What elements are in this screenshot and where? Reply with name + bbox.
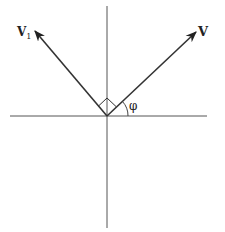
label-v: V: [197, 24, 209, 39]
vector-v1: [35, 31, 107, 116]
angle-phi-arc: [123, 102, 129, 117]
vector-diagram: V V1 φ: [0, 0, 225, 232]
vector-v: [107, 32, 196, 116]
label-v1-subscript: 1: [26, 32, 31, 41]
label-phi: φ: [129, 99, 137, 113]
label-v1: V1: [16, 25, 31, 41]
